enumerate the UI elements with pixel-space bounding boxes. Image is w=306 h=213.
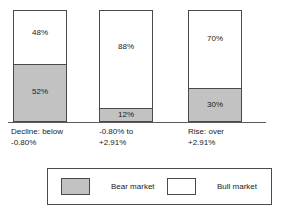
category-label-decline: Decline: below -0.80% [11, 126, 63, 148]
bar-group-middle: 88% 12% [99, 10, 153, 122]
bar-segment-label-bear: 30% [207, 101, 223, 109]
bar-segment-bull[interactable]: 88% [100, 11, 152, 108]
bar-stack: 48% 52% [13, 10, 67, 122]
bar-segment-label-bull: 88% [118, 43, 134, 51]
bar-segment-label-bull: 70% [207, 35, 223, 43]
axis-baseline [8, 122, 266, 123]
plot-area: 48% 52% 88% 12% 70% [0, 0, 306, 125]
bar-segment-bear[interactable]: 52% [14, 64, 66, 121]
bar-segment-bear[interactable]: 12% [100, 108, 152, 121]
category-label-middle: -0.80% to +2.91% [99, 126, 133, 148]
legend-item-bear-market[interactable]: Bear market [61, 177, 155, 196]
category-label-rise: Rise: over +2.91% [188, 126, 224, 148]
legend-label-bear-market: Bear market [111, 183, 155, 191]
category-axis-labels: Decline: below -0.80% -0.80% to +2.91% R… [0, 126, 306, 158]
bar-segment-label-bear: 12% [118, 111, 134, 119]
bar-segment-bear[interactable]: 30% [189, 88, 241, 121]
chart-legend: Bear market Bull market [47, 168, 272, 205]
bar-stack: 70% 30% [188, 10, 242, 122]
bar-segment-bull[interactable]: 70% [189, 11, 241, 88]
stacked-bar-chart: 48% 52% 88% 12% 70% [0, 0, 306, 213]
bar-group-decline: 48% 52% [13, 10, 67, 122]
bull-market-swatch [167, 178, 196, 195]
bear-market-swatch [61, 178, 90, 195]
bar-stack: 88% 12% [99, 10, 153, 122]
bar-group-rise: 70% 30% [188, 10, 242, 122]
bar-segment-bull[interactable]: 48% [14, 11, 66, 64]
legend-label-bull-market: Bull market [217, 183, 257, 191]
legend-item-bull-market[interactable]: Bull market [167, 177, 257, 196]
bar-segment-label-bull: 48% [32, 29, 48, 37]
bar-segment-label-bear: 52% [32, 88, 48, 96]
